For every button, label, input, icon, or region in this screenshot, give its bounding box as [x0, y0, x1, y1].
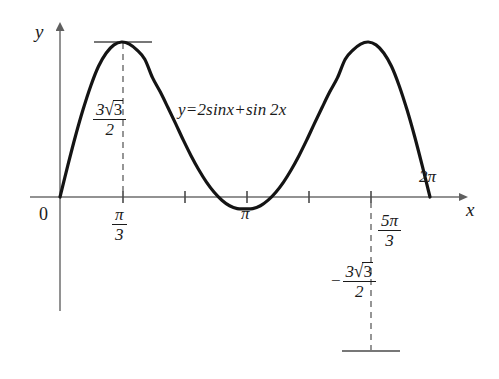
- tick-label-2pi: 2π: [419, 168, 436, 185]
- function-graph-figure: y x 0 π 3 π 5π 3 2π 3√3 2 − 3√3: [0, 0, 499, 379]
- numerator-coefficient: 3: [346, 262, 355, 281]
- radicand: 3: [113, 100, 124, 118]
- fraction-numerator: π: [112, 206, 127, 225]
- plot-canvas: [0, 0, 499, 379]
- min-value-label: − 3√3 2: [331, 262, 376, 300]
- fraction-numerator: 3√3: [93, 100, 126, 120]
- fraction-5pi-over-3: 5π 3: [378, 212, 401, 249]
- fraction-neg-3root3-over-2: 3√3 2: [343, 262, 376, 300]
- fraction-denominator: 2: [343, 282, 376, 300]
- tick-label-pi-over-3: π 3: [112, 206, 127, 243]
- equation-operator: +sin 2: [234, 100, 278, 119]
- y-axis-label: y: [35, 22, 43, 41]
- fraction-pi-over-3: π 3: [112, 206, 127, 243]
- equation-label: y=2sinx+sin 2x: [178, 101, 286, 118]
- origin-label: 0: [39, 205, 48, 223]
- fraction-denominator: 3: [378, 231, 401, 249]
- square-root-icon: √3: [354, 262, 373, 280]
- fraction-denominator: 3: [112, 225, 127, 243]
- fraction-numerator: 5π: [378, 212, 401, 231]
- tick-label-pi: π: [241, 205, 250, 222]
- equation-lhs: y=2sin: [178, 100, 227, 119]
- fraction-3root3-over-2: 3√3 2: [93, 100, 126, 138]
- fraction-numerator: 3√3: [343, 262, 376, 282]
- max-value-label: 3√3 2: [93, 100, 126, 138]
- equation-variable-2: x: [279, 100, 287, 119]
- radicand: 3: [362, 262, 373, 280]
- fraction-denominator: 2: [93, 120, 126, 138]
- x-axis-label: x: [466, 200, 474, 219]
- square-root-icon: √3: [105, 100, 124, 118]
- numerator-coefficient: 3: [96, 100, 105, 119]
- tick-label-5pi-over-3: 5π 3: [378, 212, 401, 249]
- minus-sign: −: [331, 272, 343, 289]
